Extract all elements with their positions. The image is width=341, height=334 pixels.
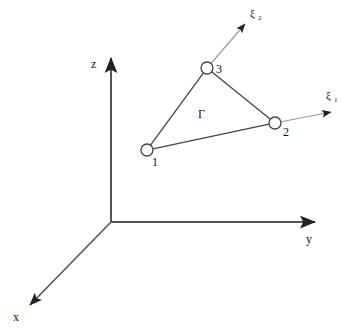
diagram-canvas: z y x ξ 1 ξ 2 Γ 1 2 3	[0, 0, 341, 334]
xi2-axis-label: ξ	[250, 7, 255, 20]
element-node-3-label: 3	[216, 62, 222, 76]
element-node-3	[201, 62, 213, 74]
element-region-label: Γ	[198, 107, 205, 121]
element-edge-3-1	[151, 73, 204, 145]
xi1-axis-subscript: 1	[334, 96, 338, 104]
xi1-axis-label: ξ	[326, 89, 331, 102]
xi1-axis-line	[275, 112, 331, 123]
triangular-element-group: Γ 1 2 3	[141, 62, 289, 169]
z-axis-label: z	[91, 57, 96, 71]
element-node-2-label: 2	[283, 125, 289, 139]
global-axes-group: z y x	[13, 57, 315, 324]
xi2-axis-line	[207, 24, 245, 68]
x-axis-line	[30, 222, 111, 305]
element-edge-2-3	[212, 72, 271, 119]
diagram-svg: z y x ξ 1 ξ 2 Γ 1 2 3	[0, 0, 341, 334]
local-axes-group: ξ 1 ξ 2	[207, 7, 338, 123]
y-axis-label: y	[306, 232, 312, 246]
element-node-2	[269, 117, 281, 129]
element-node-1-label: 1	[152, 155, 158, 169]
x-axis-label: x	[13, 310, 19, 324]
element-edge-1-2	[153, 124, 269, 149]
xi2-axis-subscript: 2	[258, 14, 262, 22]
